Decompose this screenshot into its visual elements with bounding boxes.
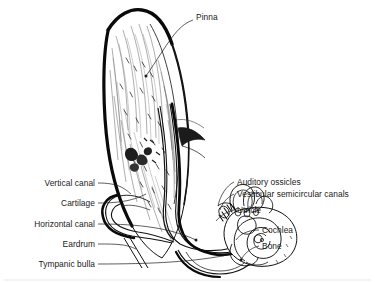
label-eardrum: Eardrum xyxy=(63,239,95,249)
label-horizontal-canal: Horizontal canal xyxy=(34,219,95,229)
pointer-dot-horizontal-canal xyxy=(195,239,198,242)
label-vertical-canal: Vertical canal xyxy=(44,178,95,188)
label-tympanic-bulla: Tympanic bulla xyxy=(38,259,95,269)
label-vestibular-semicircular-canals: Vestibular semicircular canals xyxy=(237,189,349,199)
label-auditory-ossicles: Auditory ossicles xyxy=(237,177,301,187)
pointer-dot-bone xyxy=(240,259,243,262)
figure-canvas: Pinna Vertical canal Cartilage Horizonta… xyxy=(0,0,375,282)
label-pinna: Pinna xyxy=(196,12,218,22)
label-bone: Bone xyxy=(262,241,282,251)
label-group-left: Vertical canal Cartilage Horizontal cana… xyxy=(34,178,95,269)
pinna-illustration xyxy=(103,10,205,258)
label-utricle: Utricle xyxy=(237,205,261,215)
label-cartilage: Cartilage xyxy=(61,198,95,208)
label-cochlea: Cochlea xyxy=(262,225,293,235)
label-group-top: Pinna xyxy=(196,12,218,22)
pointer-dot-pinna xyxy=(145,75,148,78)
